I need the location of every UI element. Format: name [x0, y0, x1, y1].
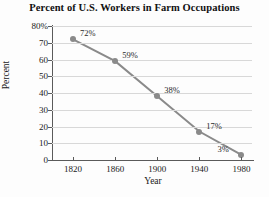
- x-tick: [241, 157, 242, 161]
- x-tick-label: 1860: [95, 164, 135, 174]
- y-tick: [48, 93, 52, 94]
- y-tick: [48, 26, 52, 27]
- y-tick-label: 80%: [18, 22, 48, 31]
- y-tick: [48, 43, 52, 44]
- x-tick-label: 1820: [53, 164, 93, 174]
- data-point-label: 59%: [122, 50, 138, 60]
- x-axis-labels: 18201860190019401980: [52, 161, 254, 177]
- gridline: [52, 43, 252, 44]
- y-axis-title: Percent: [1, 45, 11, 105]
- x-tick: [73, 157, 74, 161]
- y-tick-label: 60: [18, 56, 48, 65]
- y-tick: [48, 127, 52, 128]
- y-tick-label: 10: [18, 139, 48, 148]
- y-tick-label: 50: [18, 72, 48, 81]
- x-tick: [199, 157, 200, 161]
- chart-screenshot: Percent of U.S. Workers in Farm Occupati…: [0, 0, 269, 197]
- gridline: [52, 76, 252, 77]
- gridline: [52, 127, 252, 128]
- y-tick-label: 40: [18, 89, 48, 98]
- data-point-label: 17%: [206, 121, 222, 131]
- data-point-marker: [196, 129, 202, 135]
- y-axis-labels: 01020304050607080%: [14, 26, 48, 160]
- gridline: [52, 60, 252, 61]
- x-tick-label: 1940: [179, 164, 219, 174]
- y-tick-label: 0: [18, 156, 48, 165]
- y-tick: [48, 60, 52, 61]
- y-tick-label: 70: [18, 39, 48, 48]
- chart-title: Percent of U.S. Workers in Farm Occupati…: [0, 2, 269, 13]
- y-tick-label: 20: [18, 123, 48, 132]
- y-tick: [48, 76, 52, 77]
- gridline: [52, 93, 252, 94]
- x-tick-label: 1980: [221, 164, 261, 174]
- y-tick: [48, 143, 52, 144]
- x-tick-label: 1900: [137, 164, 177, 174]
- y-tick-label: 30: [18, 106, 48, 115]
- gridline: [52, 110, 252, 111]
- plot-area: 72%59%38%17%3%: [52, 26, 252, 160]
- x-tick: [157, 157, 158, 161]
- x-axis-title: Year: [52, 176, 254, 186]
- data-point-label: 72%: [80, 28, 96, 38]
- data-point-label: 38%: [164, 85, 180, 95]
- x-tick: [115, 157, 116, 161]
- y-tick: [48, 110, 52, 111]
- data-point-label: 3%: [217, 144, 228, 154]
- gridline: [52, 26, 252, 27]
